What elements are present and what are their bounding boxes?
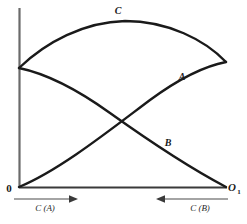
- curve-label-b: B: [164, 137, 172, 148]
- curve-label-a: A: [178, 71, 186, 82]
- right-origin-subscript: 1: [237, 188, 241, 196]
- right-origin-label: O: [228, 181, 236, 193]
- arrow-right-icon: [69, 195, 78, 203]
- curve-c: [19, 21, 226, 68]
- caption-left-group: C (A): [14, 195, 78, 213]
- curve-label-c: C: [115, 5, 122, 16]
- caption-right-text: C (B): [190, 203, 210, 213]
- caption-left-text: C (A): [35, 203, 55, 213]
- origin-label: 0: [6, 182, 12, 194]
- plot-canvas: C A B 0 O 1 C (A) C (B): [0, 0, 247, 224]
- arrow-left-icon: [156, 195, 165, 203]
- curve-b: [19, 68, 226, 187]
- diagram-figure: C A B 0 O 1 C (A) C (B): [0, 0, 247, 224]
- caption-right-group: C (B): [156, 195, 228, 213]
